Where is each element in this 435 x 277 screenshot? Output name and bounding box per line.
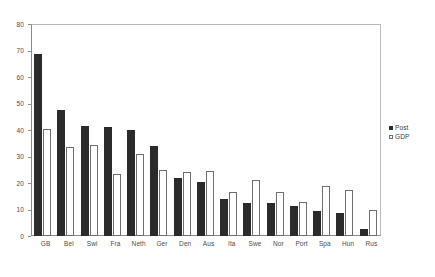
x-axis-tick-label-swe: Swe	[243, 240, 267, 248]
x-axis-tick-label-rus: Rus	[359, 240, 383, 248]
bar-post-neth	[127, 130, 135, 236]
bar-gdp-ger	[159, 170, 167, 236]
bar-post-den	[174, 178, 182, 236]
bar-group	[79, 24, 102, 236]
bar-gdp-spa	[322, 186, 330, 236]
y-axis-tick-label: 10	[0, 206, 24, 213]
bar-chart: 01020304050607080 GBBelSwiFraNethGerDenA…	[0, 0, 435, 277]
bar-group	[55, 24, 78, 236]
bar-group	[334, 24, 357, 236]
x-axis-tick-label-bel: Bel	[57, 240, 81, 248]
bar-post-ger	[150, 146, 158, 236]
y-axis: 01020304050607080	[0, 0, 31, 277]
x-axis-tick-label-ita: Ita	[220, 240, 244, 248]
open-square-icon	[389, 135, 393, 139]
legend-item-gdp: GDP	[389, 133, 433, 141]
bar-post-swi	[81, 126, 89, 236]
legend-label: GDP	[395, 133, 409, 141]
y-axis-tick-label: 30	[0, 153, 24, 160]
bar-gdp-rus	[369, 210, 377, 237]
bar-post-bel	[57, 110, 65, 236]
bar-group	[125, 24, 148, 236]
filled-square-icon	[389, 126, 393, 130]
chart-legend: PostGDP	[389, 124, 433, 142]
bar-gdp-nor	[276, 192, 284, 236]
bar-group	[102, 24, 125, 236]
bar-group	[241, 24, 264, 236]
bar-post-port	[290, 206, 298, 236]
y-axis-tick-label: 60	[0, 74, 24, 81]
bar-gdp-fra	[113, 174, 121, 236]
x-axis-tick-label-ger: Ger	[150, 240, 174, 248]
bar-post-fra	[104, 127, 112, 236]
bar-gdp-port	[299, 202, 307, 236]
y-axis-tick-label: 0	[0, 233, 24, 240]
bars-layer	[32, 24, 381, 236]
bar-post-hun	[336, 213, 344, 236]
bar-group	[288, 24, 311, 236]
x-axis-tick-label-gb: GB	[34, 240, 58, 248]
y-axis-tick-label: 80	[0, 21, 24, 28]
bar-gdp-den	[183, 172, 191, 236]
bar-group	[265, 24, 288, 236]
bar-group	[195, 24, 218, 236]
x-axis-tick-label-hun: Hun	[336, 240, 360, 248]
bar-group	[311, 24, 334, 236]
x-axis-tick-label-fra: Fra	[103, 240, 127, 248]
bar-group	[172, 24, 195, 236]
x-axis-tick-label-spa: Spa	[313, 240, 337, 248]
bar-post-gb	[34, 54, 42, 236]
y-axis-tick-label: 50	[0, 100, 24, 107]
bar-group	[358, 24, 381, 236]
bar-group	[148, 24, 171, 236]
bar-post-rus	[360, 229, 368, 236]
y-axis-tick-label: 70	[0, 47, 24, 54]
bar-post-swe	[243, 203, 251, 236]
bar-gdp-neth	[136, 154, 144, 236]
bar-gdp-gb	[43, 129, 51, 236]
bar-post-aus	[197, 182, 205, 236]
bar-gdp-swe	[252, 180, 260, 236]
bar-gdp-bel	[66, 147, 74, 236]
bar-gdp-ita	[229, 192, 237, 236]
bar-group	[32, 24, 55, 236]
y-axis-tick-label: 20	[0, 180, 24, 187]
bar-group	[218, 24, 241, 236]
x-axis-tick-label-neth: Neth	[127, 240, 151, 248]
y-axis-tick-mark	[28, 236, 31, 237]
bar-post-ita	[220, 199, 228, 236]
legend-label: Post	[395, 124, 408, 132]
x-axis-tick-label-aus: Aus	[197, 240, 221, 248]
legend-item-post: Post	[389, 124, 433, 132]
bar-gdp-aus	[206, 171, 214, 236]
y-axis-tick-label: 40	[0, 127, 24, 134]
bar-post-spa	[313, 211, 321, 236]
x-axis: GBBelSwiFraNethGerDenAusItaSweNorPortSpa…	[32, 240, 381, 256]
bar-gdp-hun	[345, 190, 353, 236]
bar-post-nor	[267, 203, 275, 236]
x-axis-tick-label-swi: Swi	[80, 240, 104, 248]
x-axis-tick-label-den: Den	[173, 240, 197, 248]
x-axis-tick-label-nor: Nor	[266, 240, 290, 248]
bar-gdp-swi	[90, 145, 98, 236]
x-axis-tick-label-port: Port	[290, 240, 314, 248]
